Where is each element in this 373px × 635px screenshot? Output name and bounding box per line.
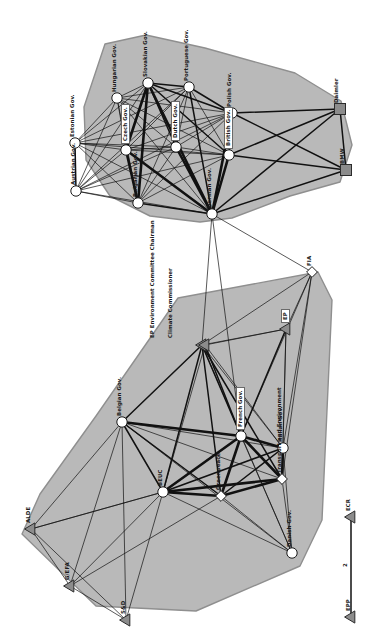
- node-danish[interactable]: [287, 548, 297, 558]
- network-diagram-canvas: Hungarian Gov.Slovakian Gov.Portuguese G…: [0, 0, 373, 635]
- node-dutch[interactable]: [171, 142, 181, 152]
- node-ecr[interactable]: [345, 511, 355, 523]
- node-label-sd: S&D: [121, 601, 126, 614]
- node-slovakian[interactable]: [143, 78, 153, 88]
- node-label-ep_env_chair: EP Environment Committee Chairman: [150, 220, 155, 338]
- edge-label-0: 2: [343, 563, 348, 567]
- node-french[interactable]: [236, 431, 246, 441]
- node-label-epp: EPP: [346, 599, 351, 611]
- node-label-estonian: Estonian Gov.: [70, 94, 75, 137]
- node-label-german: German Gov.: [207, 168, 212, 208]
- node-label-beuc: BEUC: [158, 469, 163, 486]
- node-label-ecr: ECR: [346, 499, 351, 511]
- node-beuc[interactable]: [158, 487, 168, 497]
- edge-german-fia: [212, 214, 312, 272]
- node-label-polish: Polish Gov.: [227, 72, 232, 107]
- node-label-greenpeace: Greenpeace: [216, 453, 221, 490]
- node-belgian[interactable]: [117, 417, 127, 427]
- node-label-dutch: Dutch Gov.: [171, 101, 180, 141]
- node-label-bmw: BMW: [340, 148, 345, 164]
- node-label-daimler: Daimler: [334, 79, 339, 103]
- node-label-climate_commissioner: Climate Commissioner: [168, 268, 173, 338]
- node-daimler[interactable]: [335, 104, 346, 115]
- node-bulgarian[interactable]: [133, 198, 143, 208]
- node-czech[interactable]: [121, 145, 131, 155]
- node-label-slovakian: Slovakian Gov.: [143, 31, 148, 77]
- network-graph-svg: [0, 0, 373, 635]
- node-label-gefa: G/EFA: [65, 562, 70, 580]
- node-label-british: British Gov.: [224, 107, 233, 149]
- node-label-bulgarian: Bulgarian Gov.: [133, 151, 138, 197]
- node-label-danish: Danish Gov.: [287, 510, 292, 547]
- node-label-hungarian: Hungarian Gov.: [112, 44, 117, 92]
- node-label-alde: ALDE: [26, 507, 31, 523]
- node-label-ep: EP: [281, 309, 290, 323]
- node-label-belgian: Belgian Gov.: [117, 377, 122, 416]
- node-bmw[interactable]: [341, 165, 352, 176]
- node-label-austrian: Austrian Gov.: [71, 143, 76, 185]
- node-british[interactable]: [224, 150, 234, 160]
- node-german[interactable]: [207, 209, 217, 219]
- node-gefa[interactable]: [64, 580, 74, 592]
- node-label-french: French Gov.: [236, 387, 245, 430]
- node-label-czech: Czech Gov.: [121, 104, 130, 144]
- node-label-portuguese: Portuguese Gov.: [184, 29, 189, 81]
- node-label-fia: FIA: [307, 256, 312, 266]
- node-hungarian[interactable]: [112, 93, 122, 103]
- node-label-italian: Italian Gov.: [278, 406, 283, 442]
- node-epp[interactable]: [345, 611, 355, 623]
- node-portuguese[interactable]: [184, 82, 194, 92]
- node-austrian[interactable]: [71, 186, 81, 196]
